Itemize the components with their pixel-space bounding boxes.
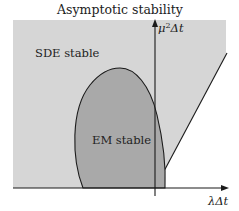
x-axis-arrow-icon [221, 185, 229, 191]
em-stable-label: EM stable [92, 133, 151, 147]
y-label-mu: μ [158, 21, 165, 35]
y-label-dt: Δt [170, 21, 184, 35]
y-axis-label: μ2Δt [158, 21, 184, 35]
x-axis-label: λΔt [207, 194, 229, 208]
sde-stable-label: SDE stable [35, 46, 100, 60]
diagram-title: Asymptotic stability [56, 2, 184, 17]
stability-diagram: Asymptotic stability SDE stable EM stabl… [0, 0, 239, 211]
